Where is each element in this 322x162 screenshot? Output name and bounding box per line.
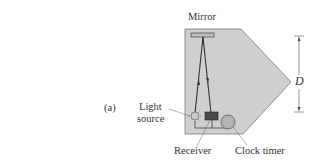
panel-label: (a) [104, 102, 116, 114]
receiver [205, 112, 218, 120]
clock-timer-icon [221, 115, 235, 129]
clock-housing [185, 29, 291, 134]
light-source-label-line2: source [137, 113, 164, 125]
light-clock-diagram [0, 0, 322, 162]
distance-label: D [295, 75, 304, 87]
mirror-label: Mirror [188, 11, 216, 23]
light-source-label-line1: Light [139, 101, 162, 113]
clock-timer-label: Clock timer [235, 145, 285, 157]
mirror [191, 33, 214, 37]
receiver-label: Receiver [174, 145, 211, 157]
